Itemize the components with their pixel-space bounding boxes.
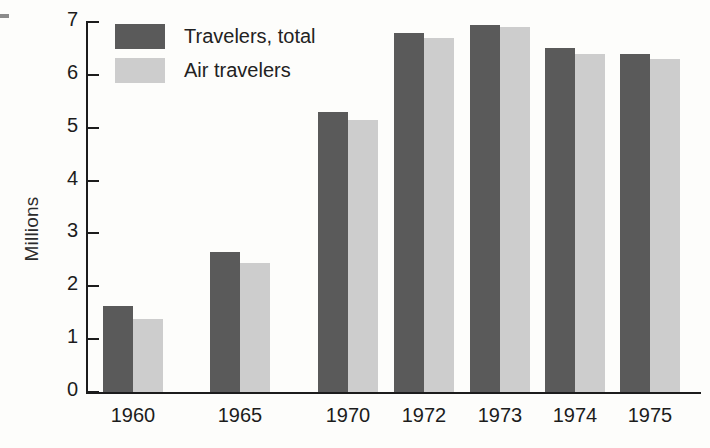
x-tick-label-1970: 1970	[308, 404, 388, 427]
bar-1975-series-1	[620, 54, 650, 392]
x-tick-label-1965: 1965	[200, 404, 280, 427]
legend-label-air-travelers: Air travelers	[184, 59, 291, 82]
bar-1970-series-2	[348, 120, 378, 392]
legend-swatch-travelers-total	[115, 24, 165, 49]
bar-1973-series-1	[470, 25, 500, 392]
x-tick-label-1960: 1960	[93, 404, 173, 427]
legend-label-travelers-total: Travelers, total	[184, 25, 316, 48]
bar-1972-series-1	[394, 33, 424, 392]
bar-chart: Millions 01234567 1960196519701972197319…	[0, 0, 710, 448]
bar-1960-series-1	[103, 306, 133, 392]
x-tick-label-1974: 1974	[535, 404, 615, 427]
bar-1965-series-1	[210, 252, 240, 392]
bar-1974-series-2	[575, 54, 605, 392]
bar-1960-series-2	[133, 319, 163, 392]
legend-item-air-travelers: Air travelers	[115, 58, 316, 83]
x-tick-label-1972: 1972	[384, 404, 464, 427]
chart-legend: Travelers, total Air travelers	[115, 24, 316, 92]
x-axis-line	[86, 392, 701, 394]
plot-area	[0, 0, 710, 392]
bar-1972-series-2	[424, 38, 454, 392]
legend-item-travelers-total: Travelers, total	[115, 24, 316, 49]
bar-1973-series-2	[500, 27, 530, 392]
bar-1970-series-1	[318, 112, 348, 392]
bar-1975-series-2	[650, 59, 680, 392]
bar-1965-series-2	[240, 263, 270, 393]
bar-1974-series-1	[545, 48, 575, 392]
x-tick-label-1973: 1973	[460, 404, 540, 427]
x-tick-label-1975: 1975	[610, 404, 690, 427]
legend-swatch-air-travelers	[115, 58, 165, 83]
